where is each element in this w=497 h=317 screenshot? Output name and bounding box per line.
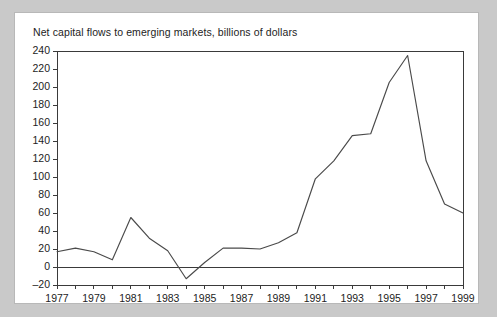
y-tick-label: 140 (32, 134, 50, 146)
y-tick-label: 100 (32, 170, 50, 182)
y-axis-tick-labels: –20020406080100120140160180200220240 (32, 44, 50, 290)
axis-frame (57, 51, 463, 285)
x-tick-label: 1985 (193, 292, 217, 304)
x-tick-label: 1995 (378, 292, 402, 304)
x-tick-label: 1981 (119, 292, 143, 304)
y-axis-tick-marks (53, 51, 57, 285)
x-tick-label: 1977 (45, 292, 69, 304)
y-tick-label: 40 (38, 224, 50, 236)
x-tick-label: 1999 (451, 292, 475, 304)
x-tick-label: 1991 (304, 292, 328, 304)
x-axis-tick-marks (57, 285, 463, 289)
x-axis-tick-labels: 1977197919811983198519871989199119931995… (45, 292, 475, 304)
y-tick-label: 0 (44, 260, 50, 272)
figure-root: Net capital flows to emerging markets, b… (0, 0, 497, 317)
x-tick-label: 1987 (230, 292, 254, 304)
y-tick-label: 180 (32, 98, 50, 110)
x-tick-label: 1979 (82, 292, 106, 304)
y-tick-label: 240 (32, 44, 50, 56)
x-tick-label: 1989 (267, 292, 291, 304)
chart-card: Net capital flows to emerging markets, b… (14, 12, 479, 304)
x-tick-label: 1983 (156, 292, 180, 304)
y-tick-label: 220 (32, 62, 50, 74)
x-tick-label: 1993 (341, 292, 365, 304)
line-chart-plot: –20020406080100120140160180200220240 197… (15, 13, 480, 305)
y-tick-label: 80 (38, 188, 50, 200)
y-tick-label: 120 (32, 152, 50, 164)
y-tick-label: –20 (32, 278, 50, 290)
y-tick-label: 60 (38, 206, 50, 218)
x-tick-label: 1997 (414, 292, 438, 304)
y-tick-label: 20 (38, 242, 50, 254)
y-tick-label: 160 (32, 116, 50, 128)
capital-flows-line (57, 56, 463, 279)
y-tick-label: 200 (32, 80, 50, 92)
